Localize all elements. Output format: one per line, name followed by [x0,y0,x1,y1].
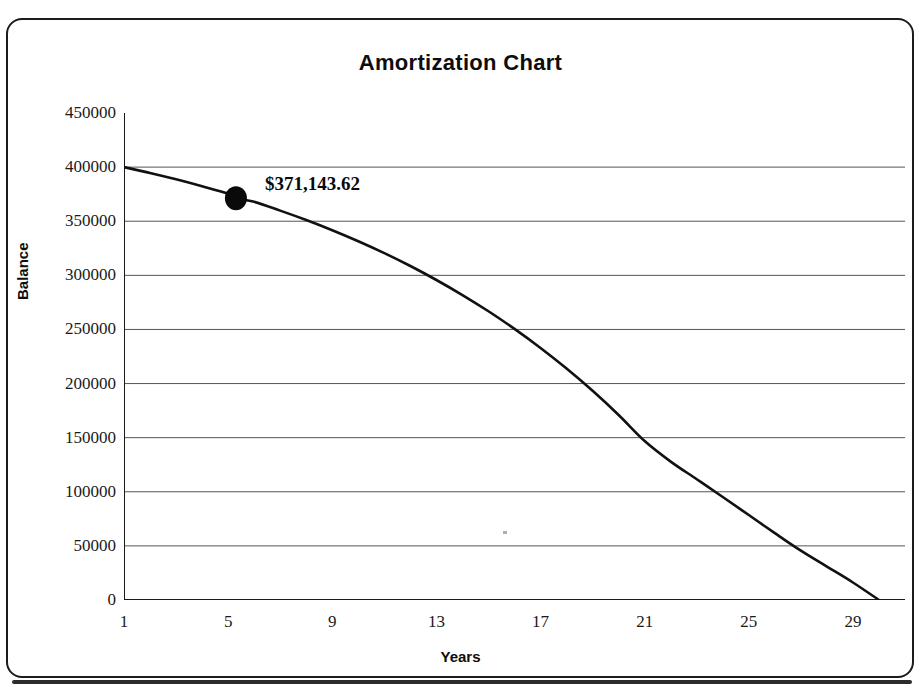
x-tick-label: 21 [623,612,667,632]
y-tick-label: 300000 [36,265,116,285]
y-tick-label: 400000 [36,157,116,177]
x-tick-label: 9 [310,612,354,632]
x-tick-label: 13 [414,612,458,632]
y-tick-label: 0 [36,590,116,610]
chart-svg [124,113,905,600]
x-axis-title: Years [0,648,921,665]
y-axis-tick-labels: 4500004000003500003000002500002000001500… [34,113,116,600]
y-tick-label: 100000 [36,482,116,502]
scan-artifact-speck [503,531,507,534]
y-tick-label: 250000 [36,319,116,339]
y-axis-title: Balance [14,242,31,300]
x-axis-tick-labels: 1591317212529 [124,612,905,636]
y-tick-label: 450000 [36,103,116,123]
x-tick-label: 29 [831,612,875,632]
y-tick-label: 150000 [36,428,116,448]
balance-marker-dot [225,186,247,210]
chart-page: Amortization Chart Balance Years 4500004… [0,0,921,695]
x-tick-label: 17 [519,612,563,632]
balance-annotation-label: $371,143.62 [265,173,360,195]
y-tick-label: 200000 [36,374,116,394]
y-tick-label: 50000 [36,536,116,556]
chart-title: Amortization Chart [0,50,921,76]
plot-area [124,113,905,600]
x-tick-label: 25 [727,612,771,632]
x-tick-label: 5 [206,612,250,632]
page-frame-shadow [12,680,912,684]
gridlines [124,167,905,600]
y-tick-label: 350000 [36,211,116,231]
x-tick-label: 1 [102,612,146,632]
